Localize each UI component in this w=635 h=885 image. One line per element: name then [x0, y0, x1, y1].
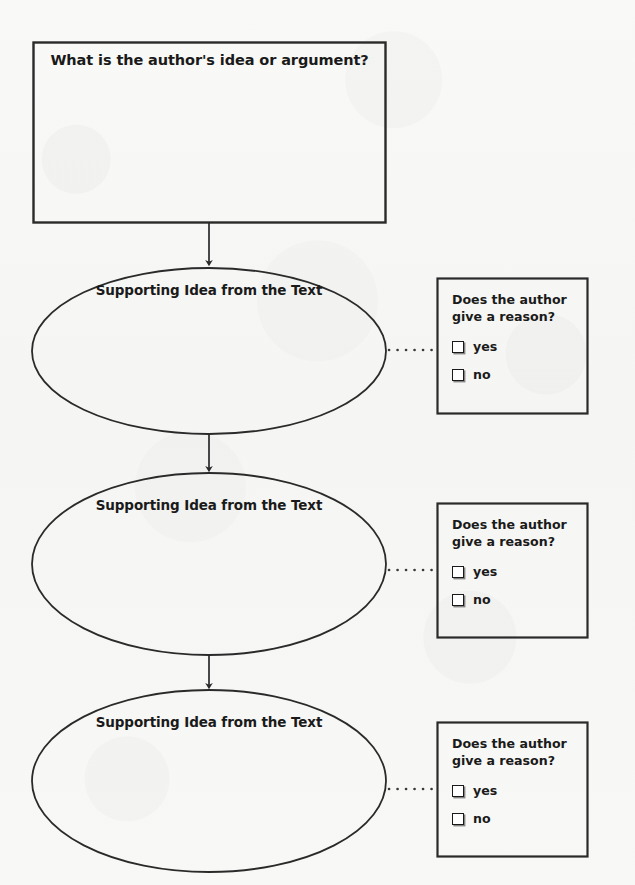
option-label: no [473, 592, 491, 607]
checkbox-icon[interactable] [452, 594, 464, 606]
prompt-box-title: What is the author's idea or argument? [33, 52, 386, 68]
option-label: yes [473, 339, 497, 354]
checkbox-icon[interactable] [452, 813, 464, 825]
option-no-1[interactable]: no [452, 367, 588, 382]
question-text-1: Does the author give a reason? [452, 292, 572, 325]
option-yes-3[interactable]: yes [452, 783, 588, 798]
supporting-idea-label-1: Supporting Idea from the Text [32, 282, 386, 298]
supporting-idea-label-3: Supporting Idea from the Text [32, 714, 386, 730]
question-box-2: Does the author give a reason? yes no [437, 503, 588, 638]
checkbox-icon[interactable] [452, 341, 464, 353]
question-box-3: Does the author give a reason? yes no [437, 722, 588, 857]
option-label: yes [473, 564, 497, 579]
option-label: yes [473, 783, 497, 798]
option-label: no [473, 367, 491, 382]
checkbox-icon[interactable] [452, 785, 464, 797]
prompt-box-outline [34, 43, 386, 223]
checkbox-icon[interactable] [452, 369, 464, 381]
option-yes-1[interactable]: yes [452, 339, 588, 354]
question-box-1: Does the author give a reason? yes no [437, 278, 588, 414]
graphic-organizer-canvas: What is the author's idea or argument? S… [0, 0, 635, 885]
checkbox-icon[interactable] [452, 566, 464, 578]
option-no-2[interactable]: no [452, 592, 588, 607]
question-text-3: Does the author give a reason? [452, 736, 572, 769]
option-label: no [473, 811, 491, 826]
supporting-idea-label-2: Supporting Idea from the Text [32, 497, 386, 513]
question-text-2: Does the author give a reason? [452, 517, 572, 550]
option-yes-2[interactable]: yes [452, 564, 588, 579]
option-no-3[interactable]: no [452, 811, 588, 826]
